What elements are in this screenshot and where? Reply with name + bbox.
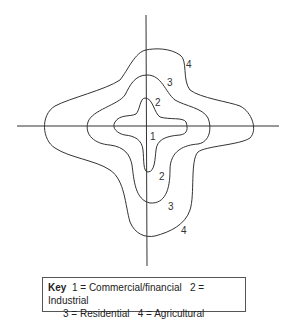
zone-label-2-bottom: 2 xyxy=(159,171,165,182)
zone-label-1: 1 xyxy=(150,131,156,142)
zone-label-2-top: 2 xyxy=(155,97,161,108)
zone-label-4-bottom: 4 xyxy=(181,225,187,236)
zone-label-3-top: 3 xyxy=(167,77,173,88)
zone-label-4-top: 4 xyxy=(186,59,192,70)
key-row-2: 3 = Residential 4 = Agricultural xyxy=(48,307,245,320)
key-item-commercial: 1 = Commercial/financial xyxy=(72,282,182,293)
key-title: Key xyxy=(48,282,66,293)
zone-boundary-3 xyxy=(44,49,253,237)
zone-boundary-2 xyxy=(87,75,210,203)
key-item-agricultural: 4 = Agricultural xyxy=(138,308,204,319)
key-row-1: Key 1 = Commercial/financial 2 = Industr… xyxy=(48,281,245,307)
key-item-residential: 3 = Residential xyxy=(63,308,129,319)
key-legend: Key 1 = Commercial/financial 2 = Industr… xyxy=(42,277,246,312)
vertical-axis xyxy=(146,15,147,266)
zone-label-3-bottom: 3 xyxy=(168,201,174,212)
